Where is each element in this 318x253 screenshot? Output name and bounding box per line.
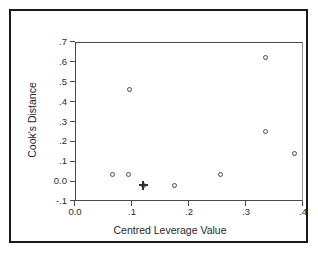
y-tick-label: .7 xyxy=(59,37,67,46)
y-tick-mark xyxy=(70,141,75,142)
y-tick-mark xyxy=(70,81,75,82)
x-axis-title: Centred Leverage Value xyxy=(11,224,318,236)
y-axis-title: Cook's Distance xyxy=(26,55,38,185)
x-tick-label: .2 xyxy=(185,207,193,217)
y-tick-mark xyxy=(70,181,75,182)
x-tick-label: .4 xyxy=(299,207,307,217)
y-tick-label: -.1 xyxy=(56,196,67,205)
data-point-cross-ring xyxy=(141,183,146,188)
data-point xyxy=(218,172,223,177)
y-tick-mark xyxy=(70,121,75,122)
figure-border: -.10.0.1.2.3.4.5.6.7 0.0.1.2.3.4 Cook's … xyxy=(9,9,308,243)
x-tick-label: .1 xyxy=(128,207,136,217)
y-tick-mark xyxy=(70,101,75,102)
plot-area xyxy=(75,42,303,201)
y-tick-label: .6 xyxy=(59,57,67,66)
data-point xyxy=(127,87,132,92)
x-tick-label: 0.0 xyxy=(68,207,81,217)
data-point xyxy=(172,183,177,188)
y-tick-mark xyxy=(70,161,75,162)
data-point xyxy=(292,151,297,156)
y-tick-label: .2 xyxy=(59,136,67,145)
y-tick-mark xyxy=(70,41,75,42)
y-tick-label: .1 xyxy=(59,156,67,165)
y-tick-label: 0.0 xyxy=(54,176,67,185)
data-point xyxy=(110,172,115,177)
data-point xyxy=(126,172,131,177)
y-tick-label: .4 xyxy=(59,97,67,106)
scatter-chart: -.10.0.1.2.3.4.5.6.7 0.0.1.2.3.4 Cook's … xyxy=(11,11,318,253)
x-tick-label: .3 xyxy=(242,207,250,217)
y-tick-label: .5 xyxy=(59,77,67,86)
y-tick-mark xyxy=(70,61,75,62)
y-tick-label: .3 xyxy=(59,117,67,126)
